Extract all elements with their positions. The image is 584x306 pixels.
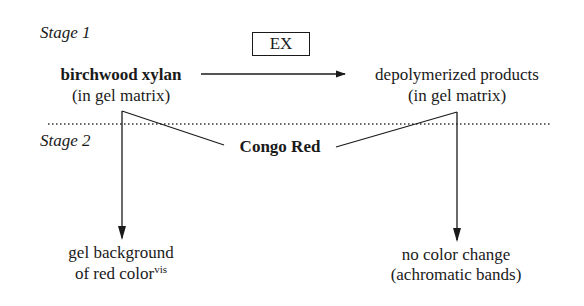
outcome-left-text: of red color [75, 264, 154, 283]
outcome-right-line1: no color change [402, 246, 511, 263]
right-diagonal [336, 112, 457, 147]
stage-2-label: Stage 2 [40, 132, 91, 149]
substrate-context: (in gel matrix) [72, 87, 170, 104]
product-name: depolymerized products [375, 66, 539, 83]
left-diagonal [122, 111, 224, 145]
outcome-left-superscript: vis [154, 263, 167, 275]
enzyme-box: EX [252, 32, 310, 56]
substrate-name: birchwood xylan [60, 66, 181, 83]
stain-label: Congo Red [240, 138, 321, 155]
product-context: (in gel matrix) [408, 87, 506, 104]
outcome-left-line2: of red colorvis [75, 264, 167, 282]
outcome-left-line1: gel background [68, 244, 173, 261]
outcome-right-line2: (achromatic bands) [391, 266, 522, 283]
stage-1-label: Stage 1 [40, 24, 91, 41]
